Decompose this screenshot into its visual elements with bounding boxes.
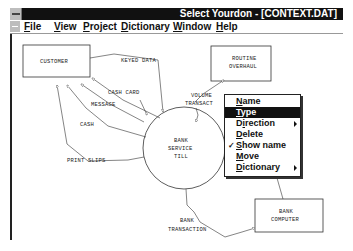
ctx-item-move[interactable]: Move bbox=[225, 151, 300, 162]
ctx-item-name[interactable]: Name bbox=[225, 96, 300, 107]
ctx-item-show-name[interactable]: ✓Show name bbox=[225, 140, 300, 151]
process-label-1: BANK bbox=[174, 137, 188, 144]
flow-keyed-data: KEYED DATA bbox=[121, 57, 156, 64]
process-label-3: TILL bbox=[174, 153, 188, 160]
customer-label: CUSTOMER bbox=[40, 58, 68, 65]
checkmark-icon: ✓ bbox=[228, 140, 235, 151]
routine-overhaul-label-2: OVERHAUL bbox=[229, 63, 257, 70]
submenu-arrow-icon bbox=[294, 165, 297, 171]
ctx-item-dictionary[interactable]: Dictionary bbox=[225, 162, 300, 173]
bank-computer-label-1: BANK bbox=[279, 208, 293, 215]
context-menu: Name Type Direction Delete ✓Show name Mo… bbox=[224, 94, 301, 177]
flow-volume-1: VOLUME bbox=[191, 92, 212, 99]
flow-message: MESSAGE bbox=[91, 101, 116, 108]
flow-print-slips: PRINT SLIPS bbox=[67, 157, 106, 164]
flow-cash: CASH bbox=[80, 121, 94, 128]
flow-volume-2: TRANSACT bbox=[185, 100, 213, 107]
ctx-item-type[interactable]: Type bbox=[225, 107, 300, 118]
routine-overhaul-label-1: ROUTINE bbox=[232, 55, 257, 62]
flow-bank-transaction-1: BANK bbox=[180, 217, 194, 224]
flow-cash-card: CASH CARD bbox=[108, 89, 140, 96]
ctx-item-direction[interactable]: Direction bbox=[225, 118, 300, 129]
process-label-2: SERVICE bbox=[168, 145, 193, 152]
submenu-arrow-icon bbox=[294, 121, 297, 127]
flow-bank-transaction-2: TRANSACTION bbox=[168, 226, 207, 233]
bank-computer-label-2: COMPUTER bbox=[271, 216, 299, 223]
ctx-item-delete[interactable]: Delete bbox=[225, 129, 300, 140]
